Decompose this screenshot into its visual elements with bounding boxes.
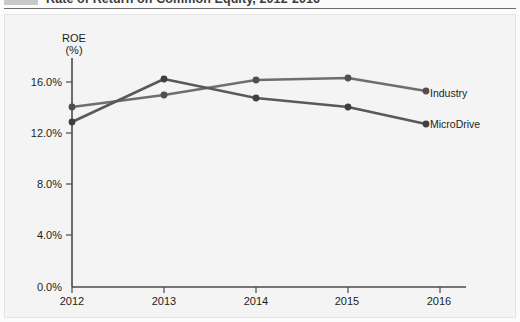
x-tick-label-0: 2012 [48, 295, 96, 307]
y-tick-label-0: 0.0% [10, 281, 62, 293]
chart-panel [4, 14, 516, 318]
y-tick-label-4: 16.0% [10, 76, 62, 88]
y-axis-title-line1: ROE [52, 32, 96, 44]
x-tick-label-3: 2015 [323, 295, 371, 307]
title-swatch [4, 0, 38, 5]
title-divider [4, 8, 516, 9]
x-tick-label-2: 2014 [232, 295, 280, 307]
y-tick-label-3: 12.0% [10, 127, 62, 139]
y-tick-label-2: 8.0% [10, 178, 62, 190]
y-axis-title-line2: (%) [52, 44, 96, 56]
chart-title: Rate of Return on Common Equity, 2012-20… [46, 0, 320, 6]
x-tick-label-4: 2016 [415, 295, 463, 307]
series-label-microdrive: MicroDrive [430, 118, 480, 130]
x-tick-label-1: 2013 [140, 295, 188, 307]
series-label-industry: Industry [430, 87, 467, 99]
figure-container: Rate of Return on Common Equity, 2012-20… [0, 0, 520, 322]
y-tick-label-1: 4.0% [10, 229, 62, 241]
